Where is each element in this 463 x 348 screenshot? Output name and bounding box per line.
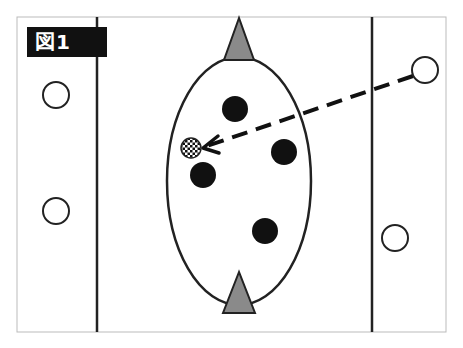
checkered-ball-icon [181, 138, 201, 158]
figure-label: 図1 [27, 27, 107, 57]
field-frame [17, 17, 446, 332]
open-circle-player [412, 57, 438, 83]
filled-circle-player [222, 96, 248, 122]
filled-circle-player [271, 139, 297, 165]
open-circle-player [43, 198, 69, 224]
open-circle-player [43, 82, 69, 108]
filled-circle-player [190, 162, 216, 188]
open-circle-player [382, 225, 408, 251]
filled-circle-player [252, 218, 278, 244]
